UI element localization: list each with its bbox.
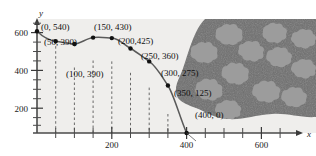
point-label-150-430: (150, 430): [94, 22, 132, 32]
y-tick-label-600: 600: [15, 28, 29, 38]
x-tick-label-600: 600: [255, 140, 269, 150]
data-point: [110, 36, 114, 40]
y-axis-label: y: [38, 8, 43, 18]
point-label-400-0: (400, 0): [195, 110, 224, 120]
x-tick-label-400: 400: [180, 140, 194, 150]
point-label-350-125: (350, 125): [174, 88, 212, 98]
data-point: [166, 83, 170, 87]
figure-container: 600 400 200 200 400 600 y x (0, 540) (50…: [0, 0, 316, 156]
plot-svg: 600 400 200 200 400 600 y x (0, 540) (50…: [0, 0, 316, 156]
y-tick-label-200: 200: [15, 104, 29, 114]
point-label-300-275: (300, 275): [161, 68, 199, 78]
data-point: [128, 46, 132, 50]
point-label-250-360: (250, 360): [141, 51, 179, 61]
x-tick-label-200: 200: [105, 140, 119, 150]
data-point: [91, 35, 95, 39]
y-tick-label-400: 400: [15, 66, 29, 76]
point-label-0-540: (0, 540): [41, 22, 70, 32]
point-label-200-425: (200,425): [118, 36, 153, 46]
point-label-100-390: (100, 390): [66, 69, 104, 79]
point-label-50-390: (50, 390): [44, 37, 77, 47]
x-axis-label: x: [306, 129, 311, 139]
data-point: [35, 29, 39, 33]
